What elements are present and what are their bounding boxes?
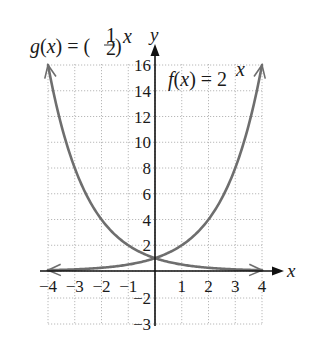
x-tick-label: −2 <box>92 277 110 296</box>
g-function-label: g(x) = ( 1 2 ) x <box>30 24 132 59</box>
f-label-exponent: x <box>235 58 245 80</box>
x-axis-arrow-icon <box>272 267 284 276</box>
tick-labels: −4−3−2−11234161412108642−2−3 <box>39 56 267 334</box>
y-tick-label: 12 <box>134 108 151 127</box>
x-axis-label: x <box>286 260 296 281</box>
y-tick-label: 14 <box>134 82 152 101</box>
exponential-graph: −4−3−2−11234161412108642−2−3 x y g(x) = … <box>0 0 311 343</box>
y-axis-arrow-icon <box>151 44 160 56</box>
g-label-exponent: x <box>122 25 132 47</box>
y-tick-label: 4 <box>143 211 152 230</box>
y-axis-label: y <box>148 24 159 45</box>
f-function-label: f(x) = 2 x <box>168 58 245 91</box>
x-tick-label: 2 <box>204 277 213 296</box>
x-tick-label: −3 <box>66 277 84 296</box>
y-tick-label: 2 <box>143 236 152 255</box>
y-tick-label: 16 <box>134 56 151 75</box>
y-tick-label: 6 <box>143 185 152 204</box>
y-tick-label: 10 <box>134 133 151 152</box>
x-tick-label: −4 <box>39 277 58 296</box>
svg-text:f(x) = 2: f(x) = 2 <box>168 68 227 91</box>
svg-text:): ) <box>115 35 122 58</box>
y-tick-label: −2 <box>133 289 151 308</box>
x-tick-label: 3 <box>231 277 240 296</box>
x-tick-label: 4 <box>258 277 267 296</box>
y-tick-label: 8 <box>143 159 152 178</box>
svg-text:g(x) = (: g(x) = ( <box>30 35 91 58</box>
x-tick-label: 1 <box>178 277 187 296</box>
y-tick-label: −3 <box>133 315 151 334</box>
